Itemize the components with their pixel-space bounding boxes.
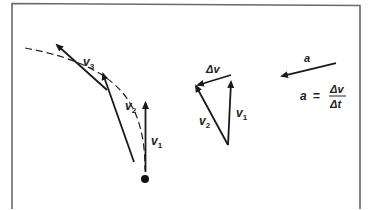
- triangle-delta-v-arrow: [198, 75, 231, 85]
- diagram-canvas: v1 v2 v3 Δv v1 v2 a a = Δv Δt: [0, 0, 374, 209]
- v1-label: v1: [151, 134, 163, 150]
- v3-vector-arrow: [57, 45, 107, 90]
- formula-numerator: Δv: [329, 83, 344, 95]
- acceleration-label: a: [304, 52, 310, 64]
- triangle-v1-arrow: [228, 82, 231, 145]
- triangle-v2-label: v2: [199, 114, 211, 130]
- acceleration-formula: a = Δv Δt: [300, 83, 346, 110]
- formula-equals: =: [313, 89, 320, 103]
- formula-lhs: a: [300, 89, 307, 103]
- v2-label: v2: [125, 99, 137, 115]
- formula-denominator: Δt: [329, 98, 342, 110]
- acceleration-arrow: [282, 63, 336, 76]
- delta-v-label: Δv: [205, 63, 220, 75]
- v3-label: v3: [83, 55, 95, 71]
- v2-vector-arrow: [103, 74, 134, 162]
- diagram-frame: [12, 4, 360, 210]
- start-point-dot: [141, 175, 149, 183]
- triangle-v1-label: v1: [236, 106, 248, 122]
